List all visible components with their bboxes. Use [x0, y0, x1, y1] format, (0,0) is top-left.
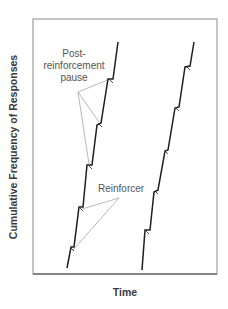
- annotation-line: reinforcement: [40, 60, 108, 72]
- reinforcer-pointer-lines: [73, 198, 119, 250]
- cumulative-curve-2: [142, 42, 194, 270]
- x-axis-label: Time: [113, 286, 137, 298]
- y-axis-label: Cumulative Frequency of Responses: [7, 55, 19, 239]
- annotation-line: Post-: [40, 48, 108, 60]
- annotation-post-reinforcement-pause: Post- reinforcement pause: [40, 48, 108, 84]
- annotation-reinforcer: Reinforcer: [98, 183, 144, 195]
- chart-canvas: [0, 0, 228, 309]
- annotation-line: pause: [40, 72, 108, 84]
- cumulative-record-chart: Cumulative Frequency of Responses Time P…: [0, 0, 228, 309]
